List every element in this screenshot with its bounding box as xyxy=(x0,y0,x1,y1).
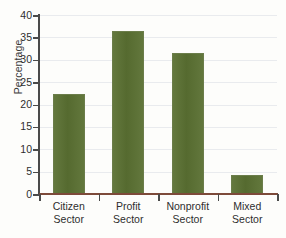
y-axis-tick-label: 5 xyxy=(6,166,32,177)
bar xyxy=(231,175,263,194)
y-axis-tick xyxy=(33,105,39,107)
y-axis-tick xyxy=(33,37,39,39)
y-axis-tick xyxy=(33,60,39,62)
gridline xyxy=(39,37,277,38)
y-axis-tick xyxy=(33,127,39,129)
y-axis-tick-label: 30 xyxy=(6,54,32,65)
y-axis-tick-label: 35 xyxy=(6,32,32,43)
y-axis-tick xyxy=(33,149,39,151)
gridline xyxy=(39,60,277,61)
category-label: MixedSector xyxy=(218,200,278,225)
category-label: ProfitSector xyxy=(99,200,159,225)
y-axis-tick xyxy=(33,172,39,174)
bar-chart: Percentage 0510152025303540 CitizenSecto… xyxy=(0,0,286,238)
plot-area xyxy=(39,15,277,194)
bar xyxy=(53,94,85,194)
gridline xyxy=(39,82,277,83)
x-axis-tick xyxy=(277,194,279,201)
y-axis-tick-label: 40 xyxy=(6,10,32,21)
bar xyxy=(112,31,144,194)
category-label: CitizenSector xyxy=(39,200,99,225)
y-axis-tick-label: 0 xyxy=(6,189,32,200)
y-axis-tick xyxy=(33,15,39,17)
y-axis-tick-label: 10 xyxy=(6,144,32,155)
y-axis-tick-label: 15 xyxy=(6,121,32,132)
bar xyxy=(172,53,204,194)
gridline xyxy=(39,15,277,16)
category-label: NonprofitSector xyxy=(158,200,218,225)
y-axis-tick-label: 20 xyxy=(6,99,32,110)
y-axis-tick-label: 25 xyxy=(6,77,32,88)
y-axis-tick xyxy=(33,82,39,84)
